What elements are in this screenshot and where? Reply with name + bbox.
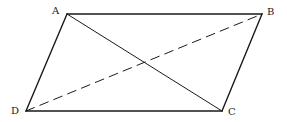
vertex-label-c: C — [228, 106, 236, 117]
vertex-label-a: A — [51, 5, 60, 16]
vertex-label-d: D — [11, 105, 19, 116]
vertex-label-b: B — [267, 6, 274, 17]
parallelogram-diagram: A B C D — [0, 0, 287, 122]
edge-bc — [222, 14, 262, 111]
